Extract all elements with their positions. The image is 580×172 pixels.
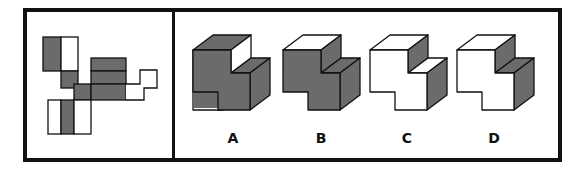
option-c-label[interactable]: C [397,130,417,146]
option-a-label[interactable]: A [223,130,243,146]
net-face-shaded [91,84,126,100]
unfolded-net [43,37,157,134]
net-face-shaded [91,71,126,84]
net-face-shaded [43,37,61,71]
option-b-label[interactable]: B [311,130,331,146]
net-face-blank [61,37,78,71]
option-c-shape[interactable] [370,35,447,110]
option-a-shape[interactable] [193,35,270,110]
net-face-blank [48,100,61,134]
option-d-shape[interactable] [457,35,534,110]
net-face-shaded [61,100,74,134]
net-face-blank [74,100,91,134]
puzzle-figure [0,0,580,172]
net-face-shaded [91,58,126,71]
net-face-blank [126,70,157,100]
option-b-shape[interactable] [283,35,360,110]
option-d-label[interactable]: D [484,130,504,146]
net-face-shaded [74,84,91,100]
